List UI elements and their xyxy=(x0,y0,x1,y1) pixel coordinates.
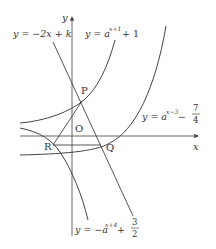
svg-text:+ 1: + 1 xyxy=(122,28,139,39)
curve-neg-a-x-plus-4-plus-3-2 xyxy=(20,128,88,220)
line-equation-label: y = −2x + k xyxy=(12,28,72,39)
svg-text:7: 7 xyxy=(193,103,198,113)
svg-text:4: 4 xyxy=(193,115,198,125)
point-P-label: P xyxy=(81,85,88,96)
svg-text:x+1: x+1 xyxy=(109,25,121,32)
svg-text:y = a: y = a xyxy=(141,111,167,122)
svg-text:2: 2 xyxy=(132,229,137,239)
svg-text:y = −a: y = −a xyxy=(74,224,108,235)
origin-label: O xyxy=(75,123,83,134)
curve1-equation-label: y = a x+1 + 1 xyxy=(84,25,139,39)
coordinate-diagram: y x O P Q R y = −2x + k y = a x+1 + 1 y … xyxy=(0,0,216,249)
curve3-equation-label: y = −a x+4 + 3 2 xyxy=(74,217,139,239)
point-R-label: R xyxy=(44,141,52,152)
curve-a-x-plus-1-plus-1 xyxy=(20,40,115,123)
curve2-equation-label: y = a x−3 − 7 4 xyxy=(141,103,200,125)
svg-text:x+4: x+4 xyxy=(105,221,117,228)
svg-text:3: 3 xyxy=(132,217,137,227)
line-neg-2x-plus-k xyxy=(53,42,133,216)
svg-text:x−3: x−3 xyxy=(166,108,178,115)
point-Q-label: Q xyxy=(106,142,114,153)
y-axis-label: y xyxy=(61,12,68,23)
svg-text:−: − xyxy=(178,111,186,122)
x-axis-label: x xyxy=(193,141,199,152)
svg-text:+: + xyxy=(117,224,125,235)
svg-text:y = a: y = a xyxy=(84,28,110,39)
